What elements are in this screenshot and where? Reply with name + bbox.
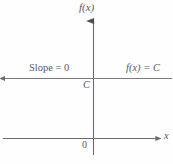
constant-value-label: C	[83, 80, 90, 91]
constant-function-figure: f(x) Slope = 0 f(x) = C C 0 x	[0, 0, 173, 164]
origin-label: 0	[82, 140, 87, 150]
function-annotation-label: f(x) = C	[126, 63, 160, 74]
y-axis-label: f(x)	[79, 2, 94, 13]
slope-annotation-label: Slope = 0	[29, 63, 69, 74]
x-axis-label: x	[164, 131, 169, 142]
